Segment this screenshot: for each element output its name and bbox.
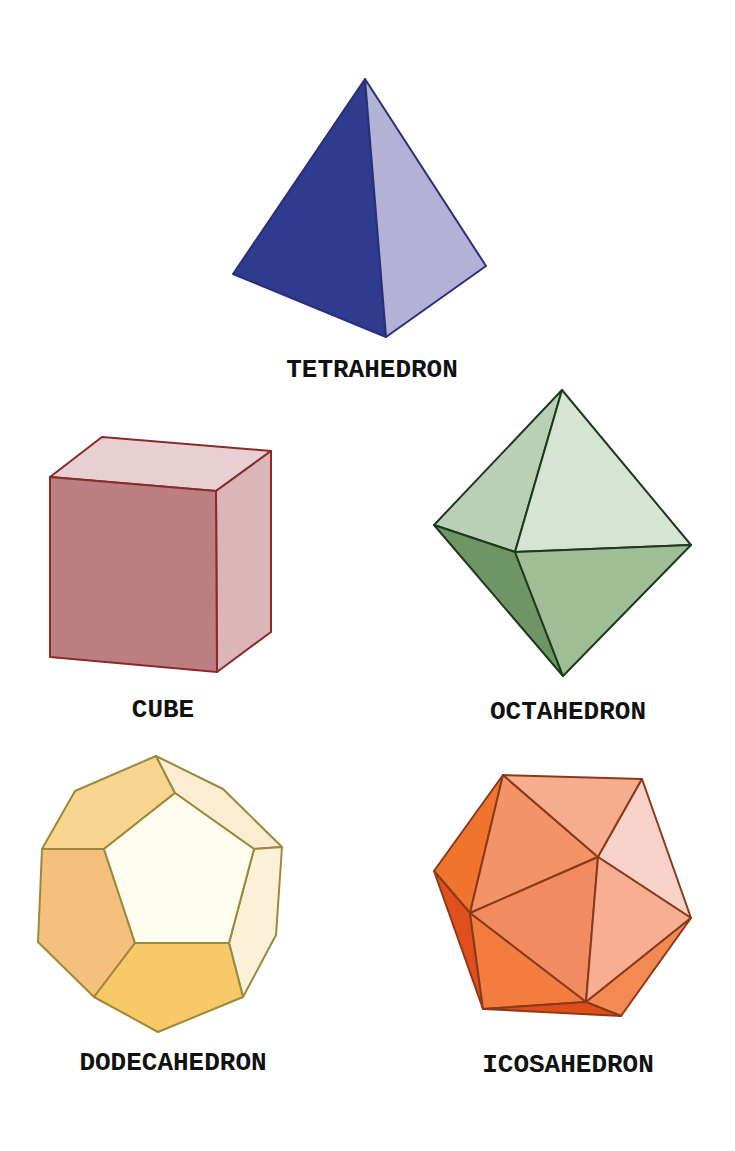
tetrahedron-right-face (365, 79, 486, 337)
cube-right-face (216, 451, 271, 672)
solids-drawing (0, 0, 735, 1151)
dodecahedron-shape (38, 756, 282, 1032)
octahedron-label: OCTAHEDRON (490, 699, 646, 725)
tetrahedron-label: TETRAHEDRON (286, 357, 458, 383)
icosahedron-label: ICOSAHEDRON (482, 1052, 654, 1078)
tetrahedron-shape (233, 79, 486, 337)
dodecahedron-label: DODECAHEDRON (79, 1050, 266, 1076)
cube-label: CUBE (132, 697, 194, 723)
platonic-solids-figure: TETRAHEDRON CUBE OCTAHEDRON DODECAHEDRON… (0, 0, 735, 1151)
icosahedron-shape (434, 775, 691, 1016)
octahedron-lower-right-face (515, 545, 691, 676)
octahedron-shape (434, 390, 691, 676)
cube-shape (50, 437, 271, 672)
tetrahedron-left-face (233, 79, 386, 337)
cube-front-face (50, 477, 217, 672)
